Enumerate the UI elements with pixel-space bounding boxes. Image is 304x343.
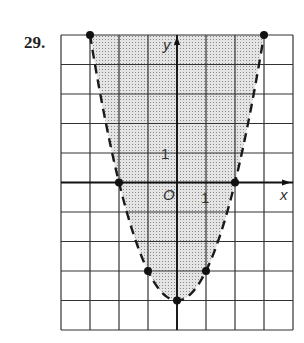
data-point <box>86 31 94 39</box>
x-tick-label: 1 <box>201 189 209 206</box>
y-tick-label: 1 <box>161 145 169 162</box>
data-point <box>231 179 239 187</box>
data-point <box>202 267 210 275</box>
data-point <box>144 267 152 275</box>
x-axis-arrow-icon <box>282 180 291 186</box>
data-point <box>173 297 181 305</box>
data-point <box>260 31 268 39</box>
axes <box>61 35 293 330</box>
x-axis-label: x <box>279 186 288 203</box>
parabola-chart: y x O 1 1 <box>0 0 304 343</box>
origin-label: O <box>163 186 175 203</box>
data-point <box>115 179 123 187</box>
